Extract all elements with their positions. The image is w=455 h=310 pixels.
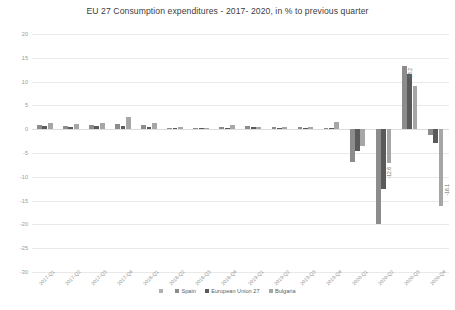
y-axis-tick-label: -20 xyxy=(20,221,28,227)
bar-group xyxy=(37,34,53,272)
legend-label: European Union 27 xyxy=(211,288,259,294)
bar[interactable] xyxy=(277,34,282,272)
bar[interactable] xyxy=(428,34,433,272)
bar-segment xyxy=(141,125,146,129)
bar[interactable] xyxy=(37,34,42,272)
legend-label: Spain xyxy=(181,288,195,294)
bar-segment xyxy=(355,129,360,150)
bar-segment xyxy=(48,123,53,129)
bar-segment xyxy=(89,125,94,129)
bar[interactable] xyxy=(230,34,235,272)
bar[interactable] xyxy=(376,34,381,272)
bar[interactable] xyxy=(68,34,73,272)
legend-label: Bulgaria xyxy=(275,288,296,294)
bar[interactable] xyxy=(100,34,105,272)
bar[interactable] xyxy=(439,34,444,272)
bar[interactable] xyxy=(178,34,183,272)
bar-group xyxy=(245,34,261,272)
bar[interactable] xyxy=(121,34,126,272)
bar[interactable] xyxy=(167,34,172,272)
bar[interactable] xyxy=(219,34,224,272)
bar-segment xyxy=(256,127,261,129)
bar[interactable] xyxy=(381,34,386,272)
bar[interactable] xyxy=(303,34,308,272)
bar[interactable] xyxy=(256,34,261,272)
bar[interactable] xyxy=(350,34,355,272)
bar-segment xyxy=(413,86,418,129)
bar[interactable] xyxy=(402,34,407,272)
y-axis-tick-label: -10 xyxy=(20,174,28,180)
legend-swatch-icon xyxy=(159,289,163,293)
bar[interactable] xyxy=(324,34,329,272)
bar-segment xyxy=(334,122,339,130)
bar[interactable] xyxy=(63,34,68,272)
bar-segment xyxy=(272,127,277,129)
bar[interactable] xyxy=(147,34,152,272)
bar-segment xyxy=(193,128,198,129)
bar[interactable] xyxy=(334,34,339,272)
bar-segment xyxy=(350,129,355,161)
bar[interactable] xyxy=(282,34,287,272)
chart-root: EU 27 Consumption expenditures - 2017- 2… xyxy=(0,0,455,310)
bar[interactable] xyxy=(74,34,79,272)
chart-title: EU 27 Consumption expenditures - 2017- 2… xyxy=(0,6,455,16)
bar[interactable] xyxy=(193,34,198,272)
bar[interactable] xyxy=(48,34,53,272)
y-axis-tick-label: 20 xyxy=(22,31,28,37)
bar-segment xyxy=(387,129,392,162)
bar-segment xyxy=(251,127,256,129)
legend-item-blank[interactable] xyxy=(159,289,166,293)
bar-segment xyxy=(100,123,105,130)
bar-segment xyxy=(225,128,230,129)
bar[interactable] xyxy=(141,34,146,272)
bar[interactable] xyxy=(245,34,250,272)
bar-segment xyxy=(204,128,209,129)
y-axis-tick-label: 0 xyxy=(25,126,28,132)
legend-item-european-union-27[interactable]: European Union 27 xyxy=(205,288,260,294)
bar-group xyxy=(63,34,79,272)
bar[interactable] xyxy=(126,34,131,272)
bar-group xyxy=(193,34,209,272)
bar[interactable] xyxy=(360,34,365,272)
bar[interactable] xyxy=(199,34,204,272)
bar[interactable] xyxy=(173,34,178,272)
legend-swatch-icon xyxy=(205,289,209,293)
bar-group xyxy=(428,34,444,272)
bars-layer xyxy=(32,34,449,272)
bar-segment xyxy=(381,129,386,189)
bar[interactable] xyxy=(115,34,120,272)
bar-segment xyxy=(37,125,42,129)
bar[interactable] xyxy=(89,34,94,272)
bar[interactable] xyxy=(42,34,47,272)
bar-segment xyxy=(433,129,438,143)
bar-group xyxy=(324,34,340,272)
bar[interactable] xyxy=(433,34,438,272)
bar[interactable] xyxy=(329,34,334,272)
bar[interactable] xyxy=(308,34,313,272)
bar[interactable] xyxy=(298,34,303,272)
bar[interactable] xyxy=(413,34,418,272)
bar[interactable] xyxy=(94,34,99,272)
bar-value-label: 13.2 xyxy=(407,68,413,78)
bar-segment xyxy=(230,125,235,129)
bar[interactable] xyxy=(204,34,209,272)
bar[interactable] xyxy=(355,34,360,272)
bar[interactable] xyxy=(152,34,157,272)
bar[interactable] xyxy=(225,34,230,272)
bar-group xyxy=(89,34,105,272)
y-axis-tick-label: 10 xyxy=(22,79,28,85)
bar-segment xyxy=(219,127,224,129)
bar-segment xyxy=(298,127,303,129)
bar-group xyxy=(350,34,366,272)
legend-item-bulgaria[interactable]: Bulgaria xyxy=(269,288,296,294)
bar-segment xyxy=(68,127,73,129)
bar-group xyxy=(272,34,288,272)
legend-item-spain[interactable]: Spain xyxy=(175,288,196,294)
bar[interactable] xyxy=(387,34,392,272)
bar-segment xyxy=(173,128,178,129)
bar[interactable] xyxy=(272,34,277,272)
bar-group xyxy=(219,34,235,272)
bar[interactable] xyxy=(251,34,256,272)
y-axis-tick-label: -15 xyxy=(20,198,28,204)
bar-segment xyxy=(126,117,131,129)
